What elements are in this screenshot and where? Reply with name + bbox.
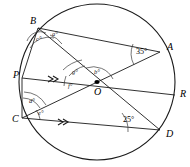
point-label-C: C xyxy=(12,113,19,124)
angle-label-25: 25° xyxy=(123,115,134,124)
angle-label-a: a° xyxy=(52,30,58,37)
point-label-R: R xyxy=(179,88,186,99)
angle-label-b: b° xyxy=(94,68,100,75)
point-label-D: D xyxy=(165,128,174,139)
angle-label-f: f° xyxy=(68,82,73,89)
angle-arc-f xyxy=(64,76,66,86)
angle-label-g: g° xyxy=(72,68,78,75)
point-label-B: B xyxy=(30,15,36,26)
angle-label-35: 35° xyxy=(136,47,147,56)
chord-B-D xyxy=(38,28,160,130)
point-label-A: A xyxy=(166,41,174,52)
point-label-O: O xyxy=(94,86,101,97)
chord-C-D xyxy=(22,118,160,130)
angle-label-c: c° xyxy=(36,35,42,42)
circle-geometry-figure: B A P O R C D a° c° b° g° f° d° e° 35° 2… xyxy=(0,0,190,167)
point-label-P: P xyxy=(12,69,19,80)
center-point-dot xyxy=(94,80,99,84)
angle-label-d: d° xyxy=(29,97,35,104)
angle-label-e: e° xyxy=(38,109,44,116)
